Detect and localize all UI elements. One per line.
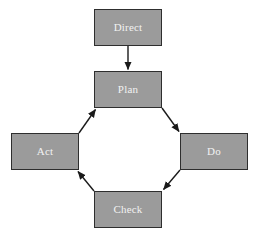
- node-direct-label: Direct: [114, 22, 143, 33]
- node-plan-label: Plan: [118, 84, 138, 95]
- node-plan[interactable]: Plan: [94, 71, 162, 108]
- node-act[interactable]: Act: [11, 133, 79, 170]
- node-act-label: Act: [37, 146, 53, 157]
- node-check-label: Check: [113, 204, 142, 215]
- connector-check-to-act: [78, 172, 94, 192]
- node-direct[interactable]: Direct: [94, 9, 162, 46]
- node-do[interactable]: Do: [180, 133, 248, 170]
- connector-do-to-check: [164, 170, 181, 190]
- node-do-label: Do: [207, 146, 221, 157]
- diagram-canvas: Direct Plan Do Check Act: [0, 0, 260, 239]
- connector-plan-to-do: [162, 108, 179, 132]
- node-check[interactable]: Check: [94, 191, 162, 228]
- connector-act-to-plan: [79, 110, 96, 134]
